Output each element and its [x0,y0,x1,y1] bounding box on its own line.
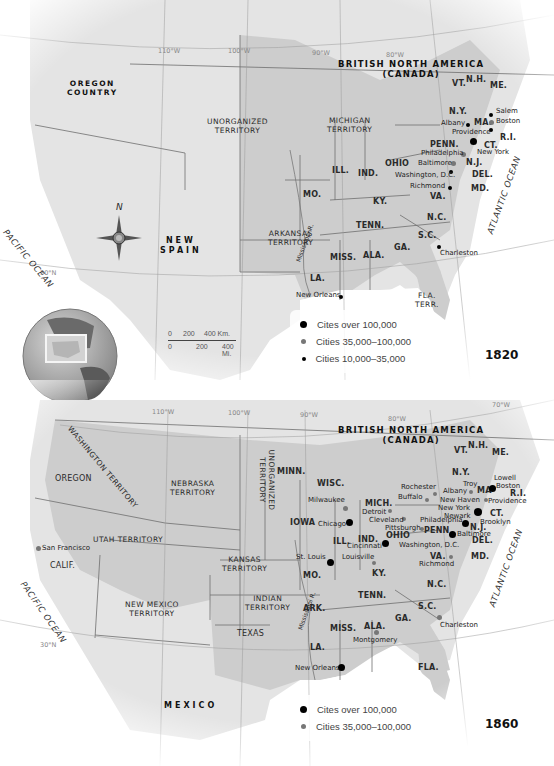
city-providence: Providence [452,129,491,136]
city-dot-philadelphia [462,520,469,527]
city-new-york: New York [477,149,509,156]
state-ny: N.Y. [452,469,470,477]
small-city-dot-icon [302,357,306,361]
state-tenn: TENN. [356,222,384,230]
state-iowa: IOWA [290,519,315,527]
city-cincinnati: Cincinnati [347,543,382,550]
coord-70w: 70°W [492,402,510,409]
city-baltimore: Baltimore [418,160,452,167]
state-nj: N.J. [466,159,483,167]
scale-km-400: 400 Km. [204,330,230,337]
legend-1860: Cites over 100,000 Cities 35,000–100,000 [290,695,421,741]
city-salem: Salem [496,108,518,115]
compass-icon [96,215,142,261]
city-dot-salem [489,113,493,117]
city-richmond: Richmond [419,561,454,568]
city-rochester: Rochester [401,484,436,491]
label-unorganized-territory: UNORGANIZED TERRITORY [207,118,268,134]
city-richmond: Richmond [410,183,445,190]
state-mich: MICH. [365,500,393,508]
state-nc: N.C. [427,214,446,222]
city-dot-san-francisco [36,546,41,551]
city-dot-richmond [448,186,452,190]
state-nh: N.H. [466,76,486,84]
state-me: ME. [490,82,507,90]
city-dot-cincinnati [382,540,389,547]
label-british-north-america: BRITISH NORTH AMERICA (CANADA) [338,426,484,444]
label-kansas-territory: KANSAS TERRITORY [222,556,267,572]
coord-110w: 110°W [152,409,174,416]
legend-item-large: Cites over 100,000 [300,316,411,333]
state-miss: MISS. [330,625,356,633]
state-minn: MINN. [277,468,305,476]
state-ind: IND. [358,170,378,178]
label-unorganized-territory: UNORGANIZED TERRITORY [259,449,275,510]
year-label-1860: 1860 [485,718,518,730]
state-ga: GA. [395,615,412,623]
state-penn: PENN [424,527,450,535]
state-texas: TEXAS [237,630,264,638]
state-ny: N.Y. [449,108,467,116]
state-mo: MO. [303,191,321,199]
city-dot-albany [466,123,470,127]
city-dot-charleston [437,615,442,620]
state-ct: CT. [490,510,504,518]
state-ri: R.I. [500,134,516,142]
city-new-orleans: New Orleans [296,292,341,299]
label-new-spain: NEW SPAIN [160,237,202,255]
state-nc: N.C. [427,581,446,589]
legend-item-large: Cites over 100,000 [300,701,411,718]
label-indian-territory: INDIAN TERRITORY [245,595,290,611]
city-brooklyn: Brooklyn [480,519,511,526]
city-dot-new-york [470,138,477,145]
city-dot-louisville [372,561,376,565]
state-la: LA. [310,644,325,652]
city-albany: Albany [441,120,465,127]
city-cleveland: Cleveland [369,517,404,524]
city-dot-baltimore [449,531,456,538]
city-new-york: New York [438,505,470,512]
city-providence: Providence [488,498,527,505]
city-new-orleans: New Orleans [295,665,340,672]
coord-90w: 90°W [300,412,318,419]
state-wisc: WISC. [317,480,344,488]
state-tenn: TENN. [358,592,386,600]
state-mo: MO. [303,572,321,580]
label-nebraska-territory: NEBRASKA TERRITORY [170,480,215,496]
state-va: VA. [430,193,446,201]
state-md: MD. [471,185,489,193]
state-oregon: OREGON [55,475,92,483]
city-boston: Boston [496,483,520,490]
state-ill: ILL. [332,167,349,175]
city-baltimore: Baltimore [457,531,491,538]
city-louisville: Louisville [342,554,374,561]
city-detroit: Detroit [362,509,386,516]
city-charleston: Charleston [440,250,478,257]
city-dot-albany [469,490,473,494]
compass-rose: N [96,215,142,261]
coord-80w: 80°W [388,416,406,423]
scale-bar: 0 200 400 Km. 0 200 400 Mi. [168,330,238,352]
city-dot-detroit [388,509,392,513]
city-chicago: Chicago [318,521,346,528]
label-new-mexico-territory: NEW MEXICO TERRITORY [125,601,179,617]
city-new-haven: New Haven [440,497,480,504]
scale-mi-0: 0 [168,343,172,350]
label-british-north-america: BRITISH NORTH AMERICA (CANADA) [338,60,484,78]
city-dot-new-york [474,508,482,516]
city-montgomery: Montgomery [353,637,397,644]
state-del: DEL. [472,171,493,179]
map-1860: 110°W 100°W 90°W 80°W 70°W 30°N BRITISH … [0,380,554,766]
legend-item-medium: Cities 35,000–100,000 [300,718,411,735]
legend-item-medium: Cities 35,000–100,000 [300,333,411,350]
label-michigan-territory: MICHIGAN TERRITORY [327,117,372,133]
state-ga: GA. [394,244,411,252]
state-md: MD. [471,553,489,561]
city-dot-milwaukee [343,506,348,511]
state-ky: KY. [373,198,387,206]
state-ky: KY. [372,570,386,578]
city-albany: Albany [443,488,467,495]
coord-100w: 100°W [228,48,250,55]
state-vt: VT. [454,447,468,455]
city-washington: Washington, D.C. [399,542,459,549]
